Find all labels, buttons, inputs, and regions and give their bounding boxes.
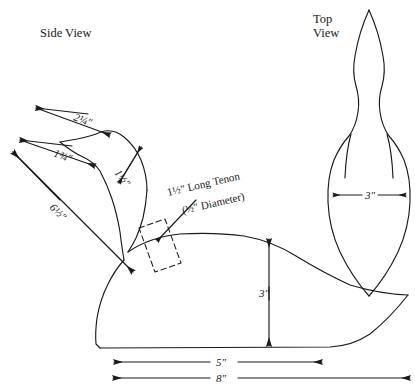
dimension-text-body-width: 3″ <box>364 189 376 201</box>
dimension-text-body-height: 3″ <box>258 287 270 299</box>
dimension-text-bill-length: 2¼″ <box>72 111 94 129</box>
dimension-text-body-length: 5″ <box>216 356 227 368</box>
decoy-pattern-drawing: 2¼″ 1¾″ 1½″ 6½″ 3″ 5″ 8″ 3″ 1½″ Long Ten… <box>0 0 415 386</box>
top-view-outline <box>328 10 410 296</box>
side-view-head-outline <box>60 131 147 260</box>
dimension-text-head-overall: 6½″ <box>48 201 70 223</box>
dimension-text-head-height: 1½″ <box>112 167 133 189</box>
dimension-text-overall-length: 8″ <box>216 372 227 384</box>
tenon-callout-line2: (½″ Diameter) <box>181 190 246 217</box>
tenon-dashed-rectangle <box>139 219 181 272</box>
side-view-body-outline <box>96 233 408 348</box>
dimension-text-bill-to-head: 1¾″ <box>52 147 74 165</box>
dimension-head-overall <box>13 152 133 272</box>
